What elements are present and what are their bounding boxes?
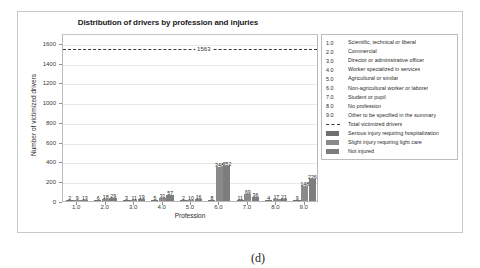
legend-code: 7.0 [326,94,348,100]
legend-code: 1.0 [326,40,348,46]
x-axis-tick-mark [304,202,305,205]
bar-value-label: 18 [103,194,109,200]
y-axis-tick-label: 600 [46,140,56,146]
legend-swatch-key [326,140,348,145]
y-axis-tick-label: 1200 [43,80,56,86]
bar-value-label: 19 [139,194,145,200]
legend-item: Not injured [326,147,454,156]
bar-value-label: 4 [267,195,270,201]
y-axis-tick-label: 200 [46,179,56,185]
y-axis-tick-mark [59,202,62,203]
gridline [63,65,317,66]
legend-item: 8.0No profession [326,102,454,111]
legend-label: Not injured [348,147,374,156]
y-axis-tick-label: 400 [46,159,56,165]
legend-label: Total victimized drivers [348,120,402,129]
bar-value-label: 21 [281,194,287,200]
legend-code: 2.0 [326,49,348,55]
color-swatch [326,131,339,136]
gridline [63,144,317,145]
legend-item: Total victimized drivers [326,120,454,129]
bar-value-label: 11 [238,195,243,201]
gridline [63,84,317,85]
x-axis-tick-mark [275,202,276,205]
bar-value-label: 8 [210,195,213,201]
legend-label: Non-agricultural worker or laborer [348,84,428,93]
bar-value-label: 352 [223,161,232,167]
legend-item: 4.0Worker specialized in services [326,65,454,74]
y-axis-tick-label: 800 [46,120,56,126]
bar-value-label: 9 [296,195,299,201]
x-axis-tick-mark [105,202,106,205]
legend-item: 6.0Non-agricultural worker or laborer [326,83,454,92]
legend-item: 3.0Director or administrative officer [326,56,454,65]
y-axis-tick-mark [59,162,62,163]
legend-code: 5.0 [326,76,348,82]
bar-value-label: 31 [160,193,166,199]
legend-item: Slight injury requiring light care [326,138,454,147]
legend-code: 8.0 [326,103,348,109]
bar-value-label: 36 [253,192,259,198]
dashed-line-swatch [326,124,340,125]
legend-item: 9.0Other to be specified in the summary [326,111,454,120]
legend-label: Director or administrative officer [348,56,424,65]
bar-value-label: 9 [76,195,79,201]
y-axis-tick-label: 0 [53,199,56,205]
x-axis-tick-mark [190,202,191,205]
x-axis-tick-mark [162,202,163,205]
legend-label: Worker specialized in services [348,65,420,74]
legend-label: Other to be specified in the summary [348,111,436,120]
legend-item: 1.0Scientific, technical or liberal [326,38,454,47]
bar-value-label: 17 [273,194,279,200]
legend-item: Serious injury requiring hospitalization [326,129,454,138]
y-axis-tick-mark [59,83,62,84]
bar-value-label: 226 [308,174,317,180]
chart-legend: 1.0Scientific, technical or liberal2.0Co… [321,34,458,160]
bar-value-label: 2 [68,195,71,201]
y-axis-tick-label: 1600 [43,41,56,47]
gridline [63,45,317,46]
plot-area: 1563291361829311195315721016834835211693… [62,34,318,202]
bar-value-label: 57 [167,190,173,196]
x-axis-tick-mark [133,202,134,205]
gridline [63,104,317,105]
gridline [63,124,317,125]
y-axis-label: Number of victimized drivers [30,74,37,156]
legend-code: 9.0 [326,112,348,118]
x-axis-tick-mark [218,202,219,205]
total-victimized-reference-line [63,49,317,50]
legend-item: 7.0Student or pupil [326,93,454,102]
y-axis-tick-mark [59,103,62,104]
color-swatch [326,149,339,154]
legend-label: Student or pupil [348,93,386,102]
bar [223,166,230,201]
gridline [63,163,317,164]
chart-title: Distribution of drivers by profession an… [18,18,318,27]
figure-caption: (d) [18,251,480,266]
x-axis-tick-mark [247,202,248,205]
y-axis-tick-mark [59,143,62,144]
legend-label: No profession [348,102,381,111]
legend-swatch-key [326,149,348,154]
bar-value-label: 6 [97,195,100,201]
legend-label: Commercial [348,47,377,56]
y-axis-tick-mark [59,44,62,45]
y-axis-tick-label: 1000 [43,100,56,106]
legend-label: Serious injury requiring hospitalization [348,129,439,138]
color-swatch [326,140,339,145]
bar-value-label: 3 [125,195,128,201]
bar-value-label: 69 [245,189,251,195]
legend-label: Agricultural or similar [348,74,398,83]
bar-value-label: 10 [188,195,194,201]
bar-value-label: 13 [82,195,88,201]
bar [309,179,316,201]
bar-value-label: 5 [154,195,157,201]
bar-value-label: 11 [131,195,136,201]
y-axis-tick-mark [59,182,62,183]
bar [244,194,251,201]
legend-code: 6.0 [326,85,348,91]
legend-item: 2.0Commercial [326,47,454,56]
x-axis-tick-mark [76,202,77,205]
bar-value-label: 29 [110,193,116,199]
bar [301,186,308,201]
